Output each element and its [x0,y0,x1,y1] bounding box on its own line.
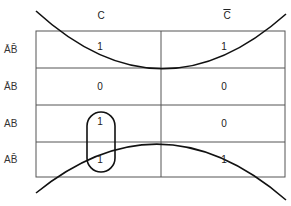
row-label-a-bar-b-bar: ĀB̄ [4,44,17,55]
row-label-a-bar-b: ĀB [4,81,17,92]
cell-r1-c0: 0 [90,81,110,92]
cell-r0-c1: 1 [214,41,234,52]
row-label-a-b: AB [4,118,17,129]
cell-r2-c0: 1 [90,116,110,127]
cell-r3-c1: 1 [214,154,234,165]
column-header-c: C [81,10,121,21]
row-label-a-b-bar: AB̄ [4,154,17,165]
column-header-c-bar: C [207,10,247,21]
cell-r3-c0: 1 [90,154,110,165]
cell-r0-c0: 1 [90,41,110,52]
kmap-grid [0,0,291,206]
cell-r2-c1: 0 [214,118,234,129]
cell-r1-c1: 0 [214,81,234,92]
